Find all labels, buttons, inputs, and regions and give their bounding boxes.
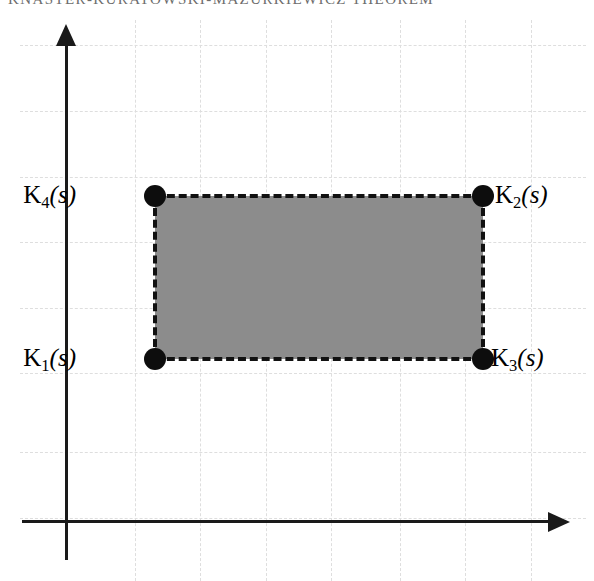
vertex-label-k2: K2(s) (495, 182, 548, 207)
running-header: KNASTER-KURATOWSKI-MAZURKIEWICZ THEOREM (0, 0, 594, 11)
vertex-label-argument: (s) (50, 181, 76, 208)
y-axis-arrow-icon (56, 24, 76, 46)
vertex-label-argument: (s) (517, 344, 543, 371)
gridline-horizontal-2 (20, 177, 586, 178)
gridline-horizontal-7 (20, 518, 586, 519)
gridline-horizontal-0 (20, 45, 586, 46)
gridline-vertical-0 (135, 20, 136, 581)
vertex-label-k4: K4(s) (0, 182, 76, 207)
y-axis-line (65, 36, 68, 560)
region-edge-top (155, 194, 483, 198)
gridline-horizontal-5 (20, 373, 586, 374)
vertex-label-base: K (23, 344, 41, 371)
gridline-vertical-6 (531, 20, 532, 581)
region-edge-right (481, 196, 485, 359)
x-axis-arrow-icon (548, 512, 570, 532)
vertex-label-k1: K1(s) (0, 345, 76, 370)
vertex-label-argument: (s) (521, 181, 547, 208)
vertex-label-base: K (495, 181, 513, 208)
region-edge-left (153, 196, 157, 359)
shaded-region (155, 196, 483, 359)
region-edge-bottom (155, 357, 483, 361)
vertex-label-argument: (s) (50, 344, 76, 371)
gridline-horizontal-1 (20, 111, 586, 112)
vertex-label-subscript: 1 (41, 356, 49, 375)
x-axis-line (22, 520, 560, 523)
vertex-dot-k1 (144, 348, 166, 370)
vertex-dot-k2 (472, 185, 494, 207)
vertex-label-base: K (23, 181, 41, 208)
vertex-label-base: K (491, 344, 509, 371)
gridline-horizontal-6 (20, 452, 586, 453)
vertex-label-subscript: 4 (41, 193, 49, 212)
vertex-dot-k4 (144, 185, 166, 207)
figure-page: KNASTER-KURATOWSKI-MAZURKIEWICZ THEOREM … (0, 0, 594, 581)
vertex-label-k3: K3(s) (491, 345, 544, 370)
